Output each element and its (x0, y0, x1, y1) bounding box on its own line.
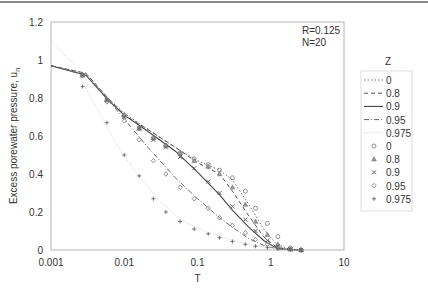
legend-label: 0.975 (386, 194, 411, 205)
y-tick-label: 0.8 (29, 93, 43, 104)
plus-marker (206, 232, 210, 236)
diamond-marker (137, 138, 141, 143)
plus-marker (151, 197, 155, 201)
plus-marker (192, 227, 196, 231)
legend-label: 0.8 (386, 154, 400, 165)
legend-label: 0.95 (386, 181, 406, 192)
diamond-marker (243, 231, 247, 236)
axes: 0.0010.010.111000.20.40.60.811.2TExcess … (8, 17, 350, 284)
y-tick-label: 1 (37, 55, 43, 66)
y-tick-label: 1.2 (29, 17, 43, 28)
plot-area (51, 22, 344, 250)
plus-marker (230, 239, 234, 243)
legend-label: 0 (386, 75, 392, 86)
legend-label: 0.9 (386, 167, 400, 178)
annotation-text: N=20 (302, 37, 327, 48)
x-marker (230, 204, 234, 208)
x-tick-label: 0.001 (38, 257, 63, 268)
x-axis-label: T (194, 273, 200, 284)
analytical-lines (51, 41, 301, 250)
diamond-marker (178, 185, 182, 190)
circle-marker (243, 189, 247, 193)
triangle-marker (265, 232, 270, 236)
annotations: R=0.125N=20 (302, 25, 341, 48)
annotation-text: R=0.125 (302, 25, 341, 36)
plus-marker (265, 246, 269, 250)
plus-marker (218, 236, 222, 240)
diamond-marker (151, 158, 155, 163)
y-tick-label: 0.2 (29, 207, 43, 218)
legend-label: 0.95 (386, 115, 406, 126)
y-tick-label: 0.6 (29, 131, 43, 142)
chart: 0.0010.010.111000.20.40.60.811.2TExcess … (0, 0, 428, 302)
triangle-marker (230, 185, 235, 189)
triangle-marker (253, 219, 258, 223)
plus-marker (122, 153, 126, 157)
plus-marker (178, 220, 182, 224)
legend-label: 0.8 (386, 88, 400, 99)
legend-label: 0.9 (386, 101, 400, 112)
x-tick-label: 0.1 (191, 257, 205, 268)
legend-label: 0 (386, 141, 392, 152)
legend: Z00.80.90.950.97500.80.90.950.975 (361, 56, 412, 211)
circle-marker (265, 221, 269, 225)
plus-marker (164, 210, 168, 214)
plot-border (51, 22, 344, 250)
circle-marker (254, 206, 258, 210)
line-faint (51, 41, 301, 250)
legend-title: Z (385, 56, 391, 67)
x-tick-label: 0.01 (115, 257, 135, 268)
y-axis-label: Excess porewater pressure, un (8, 68, 21, 204)
x-marker (243, 218, 247, 222)
circle-marker (276, 235, 280, 239)
y-tick-label: 0.4 (29, 169, 43, 180)
x-tick-label: 10 (338, 257, 350, 268)
diamond-marker (164, 172, 168, 177)
x-tick-label: 1 (268, 257, 274, 268)
x-marker (254, 229, 258, 233)
y-tick-label: 0 (37, 245, 43, 256)
legend-label: 0.975 (386, 128, 411, 139)
